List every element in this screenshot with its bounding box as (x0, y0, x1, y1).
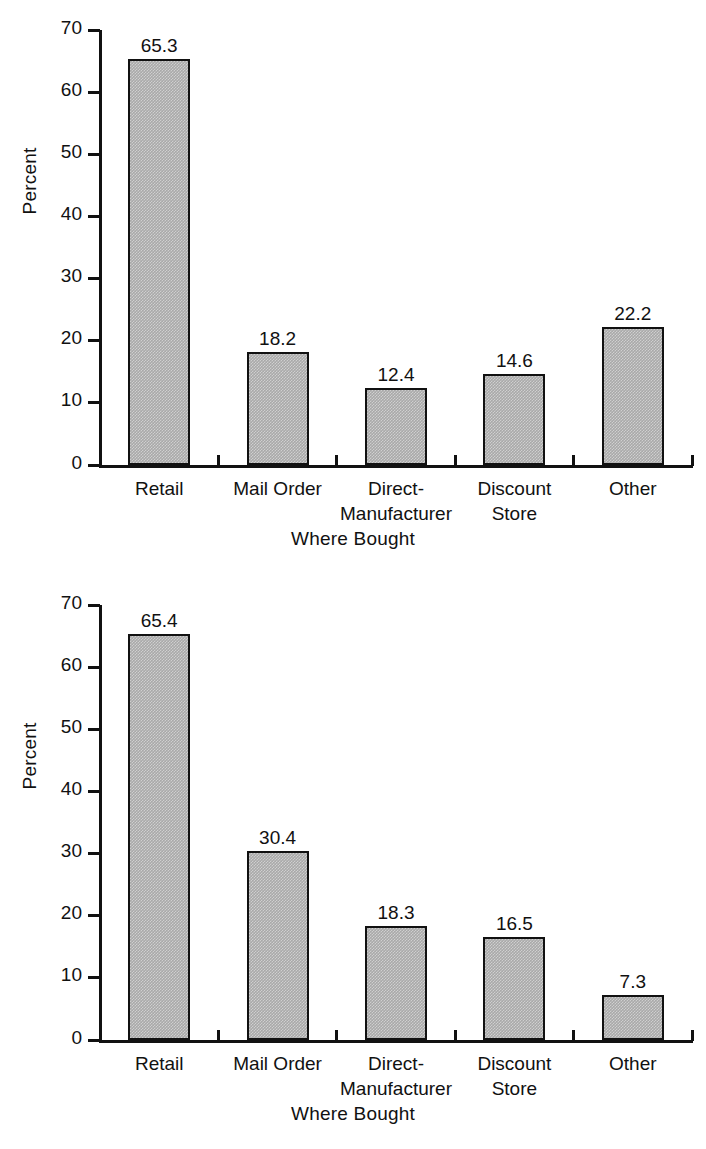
y-axis-title: Percent (19, 686, 41, 826)
x-axis-tick (454, 455, 457, 466)
bar-value-label: 12.4 (377, 364, 414, 385)
x-axis-category-label: Direct- Manufacturer (337, 476, 455, 526)
bar: 22.2 (602, 327, 664, 465)
x-axis-category-label: Discount Store (455, 1051, 573, 1101)
plot-area-top: 01020304050607065.3Retail18.2Mail Order1… (100, 30, 692, 465)
y-axis-tick: 20 (88, 914, 100, 917)
bar-value-label: 65.3 (141, 35, 178, 56)
y-axis-tick-label: 30 (61, 841, 82, 861)
bar: 12.4 (365, 388, 427, 465)
bar: 30.4 (247, 851, 309, 1040)
bar-value-label: 18.2 (259, 328, 296, 349)
y-axis-tick-label: 20 (61, 328, 82, 348)
y-axis-title: Percent (19, 111, 41, 251)
x-axis-category-label: Discount Store (455, 476, 573, 526)
bar: 16.5 (483, 937, 545, 1040)
x-axis-line (99, 465, 693, 468)
y-axis-tick: 10 (88, 401, 100, 404)
bar-chart-top: Percent 01020304050607065.3Retail18.2Mai… (0, 0, 706, 574)
bar-value-label: 22.2 (614, 303, 651, 324)
x-axis-tick (217, 1030, 220, 1041)
y-axis-tick-label: 50 (61, 717, 82, 737)
x-axis-tick (572, 455, 575, 466)
x-axis-tick (691, 455, 694, 466)
y-axis-tick-label: 40 (61, 779, 82, 799)
y-axis-tick: 50 (88, 728, 100, 731)
y-axis-tick: 40 (88, 215, 100, 218)
x-axis-category-label: Retail (100, 476, 218, 501)
y-axis-tick-label: 10 (61, 390, 82, 410)
x-axis-category-label: Other (574, 1051, 692, 1076)
y-axis-tick: 30 (88, 852, 100, 855)
bar-value-label: 14.6 (496, 350, 533, 371)
x-axis-tick (335, 1030, 338, 1041)
y-axis-tick-label: 0 (71, 1028, 82, 1048)
y-axis-tick: 70 (88, 604, 100, 607)
y-axis-tick-label: 60 (61, 80, 82, 100)
bar-value-label: 65.4 (141, 610, 178, 631)
bar: 18.2 (247, 352, 309, 465)
bar: 65.3 (128, 59, 190, 465)
bar: 18.3 (365, 926, 427, 1040)
bar-value-label: 7.3 (620, 971, 646, 992)
y-axis-tick-label: 60 (61, 655, 82, 675)
plot-area-bottom: 01020304050607065.4Retail30.4Mail Order1… (100, 605, 692, 1040)
x-axis-tick (217, 455, 220, 466)
y-axis-tick: 70 (88, 29, 100, 32)
bar-value-label: 16.5 (496, 913, 533, 934)
y-axis-tick-label: 30 (61, 266, 82, 286)
x-axis-line (99, 1040, 693, 1043)
y-axis-tick: 60 (88, 666, 100, 669)
y-axis-tick-label: 70 (61, 18, 82, 38)
bar: 14.6 (483, 374, 545, 465)
x-axis-title: Where Bought (0, 528, 706, 550)
x-axis-title: Where Bought (0, 1103, 706, 1125)
x-axis-category-label: Retail (100, 1051, 218, 1076)
bar-chart-bottom: Percent 01020304050607065.4Retail30.4Mai… (0, 575, 706, 1149)
y-axis-tick: 40 (88, 790, 100, 793)
x-axis-category-label: Mail Order (218, 1051, 336, 1076)
y-axis-tick: 10 (88, 976, 100, 979)
bar: 65.4 (128, 634, 190, 1040)
y-axis-tick-label: 20 (61, 903, 82, 923)
y-axis-tick-label: 10 (61, 965, 82, 985)
y-axis-tick-label: 70 (61, 593, 82, 613)
y-axis-tick: 0 (88, 1039, 100, 1042)
y-axis-tick: 50 (88, 153, 100, 156)
y-axis-tick-label: 0 (71, 453, 82, 473)
y-axis-tick: 30 (88, 277, 100, 280)
y-axis-tick: 0 (88, 464, 100, 467)
x-axis-tick (572, 1030, 575, 1041)
x-axis-tick (454, 1030, 457, 1041)
x-axis-category-label: Other (574, 476, 692, 501)
y-axis-tick: 60 (88, 91, 100, 94)
x-axis-category-label: Direct- Manufacturer (337, 1051, 455, 1101)
bar-value-label: 30.4 (259, 827, 296, 848)
x-axis-tick (691, 1030, 694, 1041)
y-axis-tick-label: 40 (61, 204, 82, 224)
x-axis-tick (335, 455, 338, 466)
x-axis-category-label: Mail Order (218, 476, 336, 501)
figure-page: Percent 01020304050607065.3Retail18.2Mai… (0, 0, 706, 1149)
bar-value-label: 18.3 (377, 902, 414, 923)
y-axis-tick-label: 50 (61, 142, 82, 162)
bar: 7.3 (602, 995, 664, 1040)
y-axis-tick: 20 (88, 339, 100, 342)
